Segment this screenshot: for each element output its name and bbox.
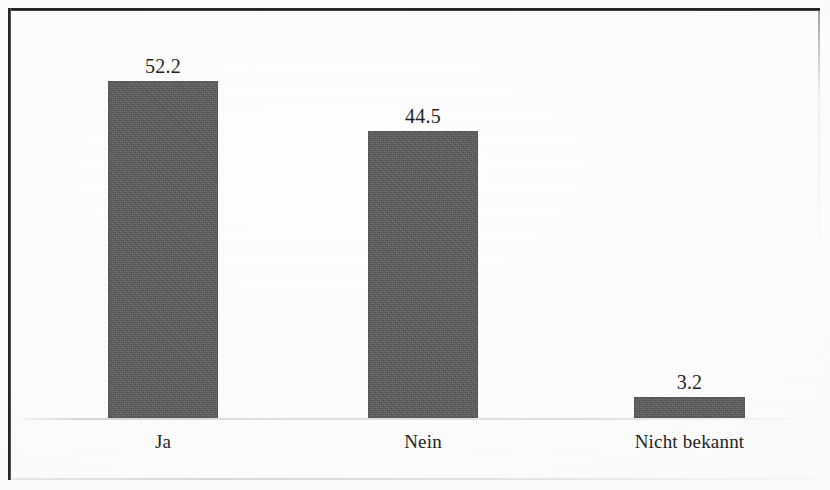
bar-value-label-nicht-bekannt: 3.2 (634, 371, 745, 393)
bars-layer: 52.2 Ja 44.5 Nein 3.2 Nicht bekannt (11, 11, 820, 477)
category-label-nein: Nein (368, 430, 478, 454)
bar-value-label-ja: 52.2 (108, 55, 218, 77)
plot-area: 52.2 Ja 44.5 Nein 3.2 Nicht bekannt (11, 11, 820, 477)
bar-ja[interactable] (108, 81, 218, 418)
bar-nein[interactable] (368, 131, 478, 418)
category-label-ja: Ja (108, 430, 218, 454)
bar-chart-screenshot: 52.2 Ja 44.5 Nein 3.2 Nicht bekannt (0, 0, 830, 490)
bar-nicht-bekannt[interactable] (634, 397, 745, 418)
category-label-nicht-bekannt: Nicht bekannt (617, 430, 762, 454)
frame-bottom-rule (10, 478, 816, 480)
bar-value-label-nein: 44.5 (368, 105, 478, 127)
